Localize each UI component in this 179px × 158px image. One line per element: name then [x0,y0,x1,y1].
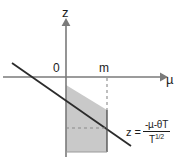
curve-equation-annotation: z = -µ-θT T1/2 [126,119,170,145]
z-axis-label: z [62,6,69,19]
equation-fraction: -µ-θT T1/2 [143,119,170,145]
equation-denominator-exponent: 1/2 [155,133,164,140]
equation-denominator: T1/2 [149,132,164,145]
equation-numerator: -µ-θT [143,119,170,131]
x-tick-label-m: m [99,62,109,74]
shaded-region [66,85,107,152]
origin-label: 0 [53,62,60,74]
equation-left-hand-side: z = [126,126,141,138]
mu-axis-label: µ [166,73,174,86]
plot-figure: z µ 0 m z = -µ-θT T1/2 [0,0,179,158]
